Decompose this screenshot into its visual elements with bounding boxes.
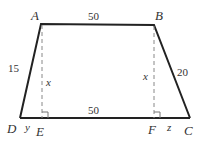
label-seg-fc: z <box>166 121 172 133</box>
vertex-label-a: A <box>30 8 39 23</box>
label-height-left: x <box>45 76 51 88</box>
label-seg-de: y <box>24 121 30 133</box>
vertex-label-d: D <box>6 121 17 136</box>
vertex-label-f: F <box>147 122 157 137</box>
vertex-label-c: C <box>184 123 193 138</box>
trapezoid-outline <box>20 24 190 118</box>
label-top-base: 50 <box>88 10 100 22</box>
label-right-leg: 20 <box>177 66 189 78</box>
vertex-label-e: E <box>35 124 44 139</box>
vertex-label-b: B <box>155 8 163 23</box>
trapezoid-diagram: A B D E F C 50 50 15 20 x x y z <box>0 0 206 142</box>
label-left-leg: 15 <box>8 62 20 74</box>
label-bottom-base: 50 <box>88 104 100 116</box>
label-height-right: x <box>142 70 148 82</box>
